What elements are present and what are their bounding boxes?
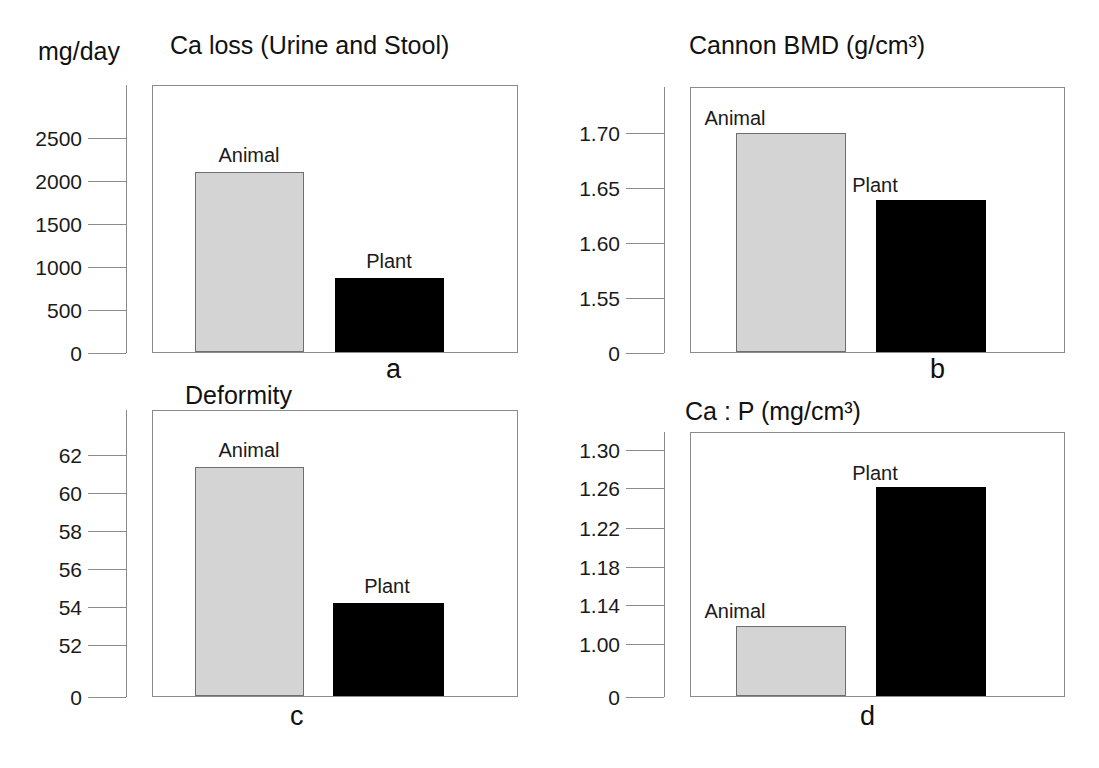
panel-c-bar-label-plant: Plant — [332, 576, 442, 596]
panel-b: Cannon BMD (g/cm³) 1.70 1.65 1.60 1.55 0… — [560, 0, 1099, 390]
panel-b-tick-label-4: 0 — [560, 343, 620, 364]
panel-b-bar-label-plant: Plant — [820, 175, 930, 195]
panel-d-y-axis-spine — [664, 432, 665, 697]
panel-a-bar-plant — [335, 278, 444, 352]
panel-c-letter: c — [290, 702, 304, 730]
panel-b-bar-animal — [736, 133, 846, 352]
panel-a-tick-label-5: 0 — [0, 343, 82, 364]
panel-c: Deformity 62 60 58 56 54 52 0 — [0, 378, 560, 768]
panel-c-y-axis-spine — [126, 410, 127, 697]
panel-a-tick-label-3: 1000 — [0, 257, 82, 278]
figure-four-panel-bar-charts: mg/day Ca loss (Urine and Stool) 2500 20… — [0, 0, 1099, 768]
panel-b-title: Cannon BMD (g/cm³) — [689, 30, 925, 60]
panel-c-tick-label-4: 54 — [0, 597, 82, 618]
panel-a-bar-label-animal: Animal — [194, 145, 304, 165]
panel-d-tick-label-1: 1.26 — [560, 478, 620, 499]
panel-b-tick-label-1: 1.65 — [560, 178, 620, 199]
panel-a-y-axis-spine — [126, 85, 127, 353]
panel-b-y-axis-spine — [664, 87, 665, 353]
panel-a-bar-animal — [195, 172, 304, 352]
panel-a-tick-label-2: 1500 — [0, 214, 82, 235]
panel-d-bar-animal — [736, 626, 846, 696]
panel-b-bar-label-animal: Animal — [680, 108, 790, 128]
panel-c-bar-animal — [195, 467, 304, 696]
panel-d-title: Ca : P (mg/cm³) — [685, 396, 861, 426]
panel-a-plot-area — [152, 85, 518, 353]
panel-a-tick-label-0: 2500 — [0, 128, 82, 149]
panel-d-tick-label-0: 1.30 — [560, 440, 620, 461]
panel-b-bar-plant — [876, 200, 986, 352]
panel-d-letter: d — [860, 702, 875, 730]
panel-c-tick-label-6: 0 — [0, 687, 82, 708]
panel-c-bar-label-animal: Animal — [194, 440, 304, 460]
panel-c-title: Deformity — [185, 380, 292, 410]
panel-d-bar-label-animal: Animal — [680, 601, 790, 621]
panel-b-tick-label-2: 1.60 — [560, 233, 620, 254]
panel-c-bar-plant — [333, 603, 444, 696]
panel-d-tick-label-4: 1.14 — [560, 595, 620, 616]
panel-c-tick-label-2: 58 — [0, 521, 82, 542]
panel-d-tick-label-2: 1.22 — [560, 518, 620, 539]
panel-d-tick-label-6: 0 — [560, 687, 620, 708]
panel-a-bar-label-plant: Plant — [334, 251, 444, 271]
panel-a-tick-label-1: 2000 — [0, 171, 82, 192]
panel-c-tick-label-0: 62 — [0, 445, 82, 466]
panel-b-tick-label-3: 1.55 — [560, 288, 620, 309]
panel-c-tick-label-5: 52 — [0, 635, 82, 656]
panel-d-tick-label-5: 1.00 — [560, 634, 620, 655]
panel-c-tick-label-1: 60 — [0, 483, 82, 504]
panel-d-bar-label-plant: Plant — [820, 463, 930, 483]
panel-b-tick-label-0: 1.70 — [560, 123, 620, 144]
panel-d-bar-plant — [876, 487, 986, 696]
panel-d-tick-label-3: 1.18 — [560, 557, 620, 578]
panel-c-tick-label-3: 56 — [0, 559, 82, 580]
panel-d: Ca : P (mg/cm³) 1.30 1.26 1.22 1.18 1.14… — [560, 378, 1099, 768]
panel-a: mg/day Ca loss (Urine and Stool) 2500 20… — [0, 0, 560, 390]
panel-a-unit-label: mg/day — [38, 36, 120, 66]
panel-a-title: Ca loss (Urine and Stool) — [170, 30, 449, 60]
panel-a-tick-label-4: 500 — [0, 300, 82, 321]
